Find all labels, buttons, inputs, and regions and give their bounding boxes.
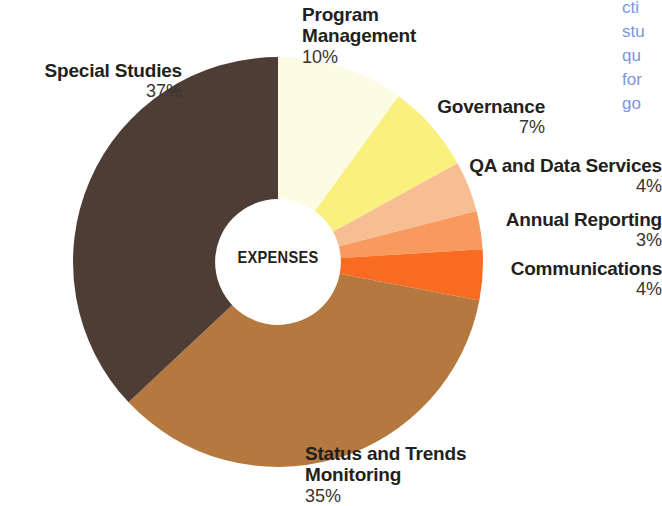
slice-label-governance: Governance 7%: [310, 96, 545, 137]
slice-label-status-and-trends-line2: Monitoring: [305, 464, 466, 485]
slice-value-program-management: 10%: [302, 47, 416, 67]
slice-value-status-and-trends-monitoring: 35%: [305, 486, 466, 506]
slice-label-communications: Communications 4%: [400, 258, 662, 299]
slice-value-qa-and-data-services: 4%: [352, 176, 662, 196]
body-text-line-1: cti: [622, 0, 662, 20]
slice-label-communications-name: Communications: [400, 258, 662, 279]
slice-label-qa-and-data-services-name: QA and Data Services: [352, 155, 662, 176]
body-text-line-4: for: [622, 68, 662, 92]
slice-label-program-management-line1: Program: [302, 4, 416, 25]
slice-value-governance: 7%: [310, 117, 545, 137]
body-text-line-2: stu: [622, 20, 662, 44]
body-text-line-5: go: [622, 92, 662, 116]
slice-label-special-studies: Special Studies 37%: [4, 60, 182, 101]
slice-label-program-management: Program Management 10%: [302, 4, 416, 67]
slice-label-status-and-trends-monitoring: Status and Trends Monitoring 35%: [305, 443, 466, 506]
slice-label-annual-reporting: Annual Reporting 3%: [400, 209, 662, 250]
slice-value-special-studies: 37%: [4, 81, 182, 101]
slice-label-status-and-trends-line1: Status and Trends: [305, 443, 466, 464]
slice-label-qa-and-data-services: QA and Data Services 4%: [352, 155, 662, 196]
donut-center-caption: EXPENSES: [226, 248, 329, 268]
slice-value-communications: 4%: [400, 279, 662, 299]
slice-label-program-management-line2: Management: [302, 25, 416, 46]
slice-label-annual-reporting-name: Annual Reporting: [400, 209, 662, 230]
slice-value-annual-reporting: 3%: [400, 230, 662, 250]
slice-label-governance-name: Governance: [310, 96, 545, 117]
body-text-line-3: qu: [622, 44, 662, 68]
slice-label-special-studies-name: Special Studies: [4, 60, 182, 81]
adjacent-body-text-clipped: ctistuquforgo: [622, 0, 662, 116]
